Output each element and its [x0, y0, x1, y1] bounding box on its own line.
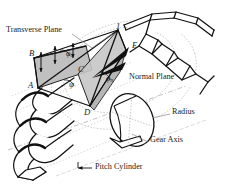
angle-label-phi-t: φt	[66, 50, 72, 58]
vertex-label-1: 1	[116, 22, 120, 31]
callout-gear-axis: Gear Axis	[150, 136, 183, 144]
callout-transverse-plane: Transverse Plane	[6, 26, 62, 34]
callout-radius: Radius	[172, 108, 195, 116]
vertex-label-A: A	[28, 81, 33, 90]
gear-geometry-figure: Transverse Plane Normal Plane Radius Gea…	[0, 0, 228, 186]
callout-pitch-cylinder: Pitch Cylinder	[95, 163, 143, 171]
angle-label-psi: ψ	[69, 81, 74, 89]
helical-tooth-flank-left	[28, 88, 74, 180]
vertex-label-C: C	[78, 65, 84, 74]
gear-rim-teeth	[124, 12, 214, 94]
tooth-bottom-face	[18, 167, 46, 180]
vertex-label-D: D	[84, 108, 90, 117]
phi-n-subscript: n	[110, 77, 113, 83]
callout-normal-plane: Normal Plane	[129, 73, 174, 81]
vertex-label-B: B	[29, 49, 34, 58]
phi-t-subscript: t	[70, 52, 72, 58]
psi-symbol: ψ	[69, 80, 74, 89]
vertex-label-E: E	[132, 41, 137, 50]
angle-label-phi-n: φn	[106, 75, 113, 83]
